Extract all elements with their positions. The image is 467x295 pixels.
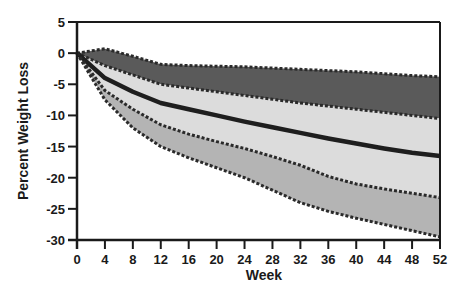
y-tick-label: -30 xyxy=(46,233,65,248)
x-tick-label: 48 xyxy=(405,252,419,267)
x-tick-label: 20 xyxy=(209,252,223,267)
weight-loss-chart: 50-5-10-15-20-25-30048121620242832364044… xyxy=(0,0,467,295)
x-tick-label: 12 xyxy=(154,252,168,267)
y-tick-label: -5 xyxy=(53,77,65,92)
y-tick-label: 0 xyxy=(58,46,65,61)
x-tick-label: 28 xyxy=(265,252,279,267)
chart-bands xyxy=(77,49,440,237)
y-tick-label: -15 xyxy=(46,140,65,155)
y-tick-label: -25 xyxy=(46,202,65,217)
x-tick-label: 24 xyxy=(237,252,252,267)
x-tick-label: 4 xyxy=(101,252,109,267)
x-tick-label: 52 xyxy=(433,252,447,267)
x-tick-label: 44 xyxy=(377,252,392,267)
x-tick-label: 36 xyxy=(321,252,335,267)
x-tick-label: 40 xyxy=(349,252,363,267)
y-axis-title: Percent Weight Loss xyxy=(15,62,31,200)
y-tick-label: -20 xyxy=(46,171,65,186)
x-tick-label: 8 xyxy=(129,252,136,267)
x-tick-label: 32 xyxy=(293,252,307,267)
y-tick-label: -10 xyxy=(46,108,65,123)
x-tick-label: 0 xyxy=(73,252,80,267)
x-tick-label: 16 xyxy=(181,252,195,267)
x-axis-title: Week xyxy=(246,267,283,283)
y-tick-label: 5 xyxy=(58,15,65,30)
